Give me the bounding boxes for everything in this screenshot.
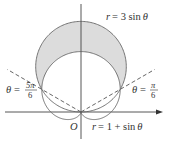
cardioid-label: r= 1 + sinθ [92,121,143,132]
svg-text:θ: θ [6,84,11,95]
right-angle-label: θ = π 6 [132,80,158,100]
origin-label: O [70,121,78,132]
left-angle-label: θ = 5π 6 [6,80,37,100]
svg-text:5π: 5π [26,80,35,90]
svg-text:π: π [151,80,156,90]
diagram-canvas: r= 3 sinθ r= 1 + sinθ O θ = 5π 6 θ = π 6 [0,0,178,147]
x-axis-arrow-icon [156,110,163,115]
circle-label: r= 3 sinθ [106,11,148,22]
svg-text:=: = [140,84,146,95]
svg-text:=: = [14,84,20,95]
svg-text:6: 6 [151,90,155,100]
svg-text:6: 6 [28,90,32,100]
polar-diagram: r= 3 sinθ r= 1 + sinθ O θ = 5π 6 θ = π 6 [0,0,178,147]
svg-text:θ: θ [132,84,137,95]
